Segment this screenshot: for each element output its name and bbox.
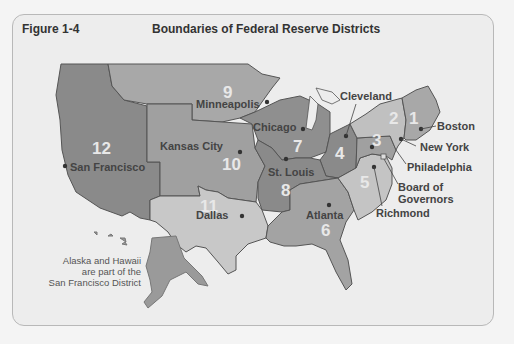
city-label-kansas-city: Kansas City (160, 140, 224, 152)
city-dot-minneapolis (265, 100, 269, 104)
district-1-region (402, 86, 440, 140)
hawaii-islands (94, 232, 127, 245)
city-dot-chicago (301, 127, 305, 131)
district-number-4: 4 (335, 144, 345, 163)
city-dot-atlanta (327, 203, 331, 207)
city-label-new-york: New York (420, 141, 470, 153)
district-number-1: 1 (409, 109, 418, 128)
district-number-2: 2 (389, 109, 398, 128)
board-of-governors-marker (381, 154, 386, 159)
board-label-line1: Board of (398, 181, 444, 193)
philadelphia-leader-line (396, 150, 406, 164)
district-number-8: 8 (281, 181, 290, 200)
district-number-5: 5 (360, 173, 369, 192)
city-label-boston: Boston (437, 120, 475, 132)
district-number-7: 7 (293, 137, 302, 156)
note-line1: Alaska and Hawaii (63, 255, 141, 266)
city-dot-kansas-city (238, 150, 242, 154)
city-label-st-louis: St. Louis (268, 166, 314, 178)
city-label-richmond: Richmond (376, 207, 430, 219)
city-label-philadelphia: Philadelphia (407, 161, 473, 173)
city-dot-st-louis (284, 157, 288, 161)
city-dot-dallas (240, 214, 244, 218)
city-label-san-francisco: San Francisco (70, 161, 145, 173)
city-label-dallas: Dallas (196, 209, 228, 221)
district-number-10: 10 (222, 155, 241, 174)
federal-reserve-map: 1 2 3 4 5 6 7 8 9 10 11 12 San Francisco… (0, 0, 514, 344)
city-label-cleveland: Cleveland (340, 90, 392, 102)
city-label-minneapolis: Minneapolis (196, 98, 260, 110)
city-dot-san-francisco (63, 164, 67, 168)
district-number-6: 6 (321, 221, 330, 240)
note-line3: San Francisco District (49, 277, 142, 288)
board-label-line2: Governors (398, 193, 454, 205)
district-number-3: 3 (372, 131, 381, 150)
city-label-chicago: Chicago (253, 121, 297, 133)
city-label-atlanta: Atlanta (306, 209, 344, 221)
district-number-12: 12 (92, 139, 111, 158)
note-line2: are part of the (82, 266, 141, 277)
